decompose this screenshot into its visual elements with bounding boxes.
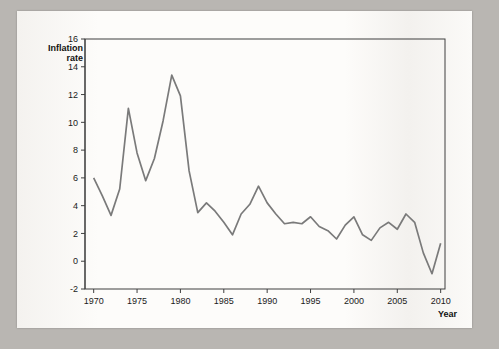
x-tick-label: 2000 xyxy=(344,296,364,306)
x-axis-ticks: 197019751980198519901995200020052010 xyxy=(84,289,451,306)
y-tick-label: 10 xyxy=(68,118,78,128)
x-tick-label: 1995 xyxy=(301,296,321,306)
y-tick-label: 12 xyxy=(68,90,78,100)
x-tick-label: 2005 xyxy=(387,296,407,306)
y-axis-ticks: -20246810121416 xyxy=(68,34,85,294)
y-tick-label: -2 xyxy=(70,284,78,294)
y-tick-label: 6 xyxy=(73,173,78,183)
chart-container: -20246810121416 197019751980198519901995… xyxy=(17,11,472,328)
data-series-line xyxy=(94,75,441,274)
x-axis-title: Year xyxy=(438,309,458,319)
inflation-line-chart: -20246810121416 197019751980198519901995… xyxy=(17,11,472,328)
x-tick-label: 1970 xyxy=(84,296,104,306)
scanned-page: -20246810121416 197019751980198519901995… xyxy=(17,11,472,328)
x-tick-label: 1980 xyxy=(170,296,190,306)
y-axis-title-line1: Inflation xyxy=(48,43,83,53)
y-tick-label: 8 xyxy=(73,145,78,155)
x-tick-label: 1975 xyxy=(127,296,147,306)
y-tick-label: 2 xyxy=(73,229,78,239)
x-tick-label: 1990 xyxy=(257,296,277,306)
y-tick-label: 4 xyxy=(73,201,78,211)
y-tick-label: 14 xyxy=(68,62,78,72)
x-tick-label: 2010 xyxy=(431,296,451,306)
plot-border xyxy=(85,39,445,289)
y-axis-title-line2: rate xyxy=(66,53,83,63)
x-tick-label: 1985 xyxy=(214,296,234,306)
y-tick-label: 0 xyxy=(73,256,78,266)
